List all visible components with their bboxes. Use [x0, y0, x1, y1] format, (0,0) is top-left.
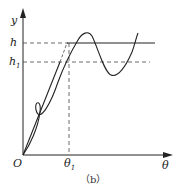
figure-caption: （b） [80, 175, 106, 185]
ramp-line [23, 62, 60, 155]
theta1-label-base: θ [64, 157, 71, 170]
x-axis-arrow-icon [163, 152, 173, 158]
x-axis-label: θ [162, 160, 169, 171]
y-axis-label: y [11, 15, 17, 26]
h1-label-sub: 1 [16, 62, 20, 70]
theta1-label-sub: 1 [71, 164, 75, 172]
theta1-label: θ1 [64, 158, 75, 172]
ramp-dashed-line [60, 43, 67, 62]
h-label: h [10, 37, 17, 48]
y-axis-arrow-icon [20, 8, 26, 18]
response-diagram [0, 0, 179, 192]
oscillating-response-curve [23, 33, 138, 155]
h1-label: h1 [9, 56, 21, 70]
origin-label: O [13, 158, 22, 169]
